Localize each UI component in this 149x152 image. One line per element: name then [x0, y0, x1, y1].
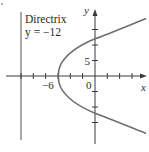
parabola-diagram: Directrix y = −12 y x −6 0 5: [0, 0, 149, 152]
y-axis-label: y: [83, 4, 89, 16]
stray-dot: [1, 3, 3, 5]
directrix-label-line2: y = −12: [25, 26, 61, 39]
tick-label-0: 0: [86, 79, 92, 91]
directrix-label-line1: Directrix: [25, 13, 67, 25]
x-axis: [6, 73, 147, 79]
x-axis-label: x: [140, 81, 146, 93]
x-axis-arrow-icon: [140, 74, 147, 79]
y-axis-arrow-icon: [93, 9, 98, 16]
tick-label-5: 5: [85, 55, 91, 67]
tick-label-neg6: −6: [42, 79, 54, 91]
